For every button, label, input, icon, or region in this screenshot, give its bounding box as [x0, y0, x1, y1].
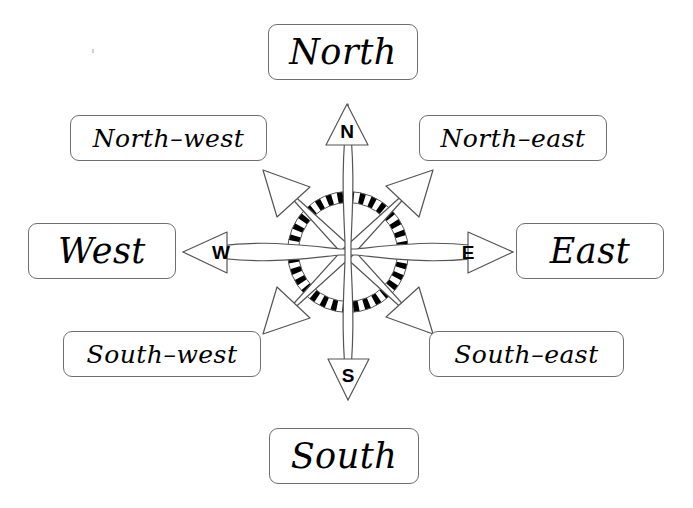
label-north-west: North–west: [70, 115, 267, 161]
north-south-ray: [343, 104, 353, 400]
label-north-east: North–east: [419, 115, 607, 161]
label-south-west: South–west: [63, 331, 261, 377]
marker-west: W: [208, 243, 234, 262]
label-south: South: [269, 428, 419, 484]
label-south-east: South–east: [429, 331, 624, 377]
compass-rose-diagram: .spindle { fill: #ffffff; stroke: #55555…: [0, 0, 693, 508]
marker-south: S: [335, 366, 361, 385]
marker-north: N: [334, 122, 360, 141]
label-west: West: [28, 223, 176, 279]
label-north: North: [268, 24, 418, 80]
label-east: East: [516, 223, 664, 279]
marker-east: E: [455, 243, 481, 262]
